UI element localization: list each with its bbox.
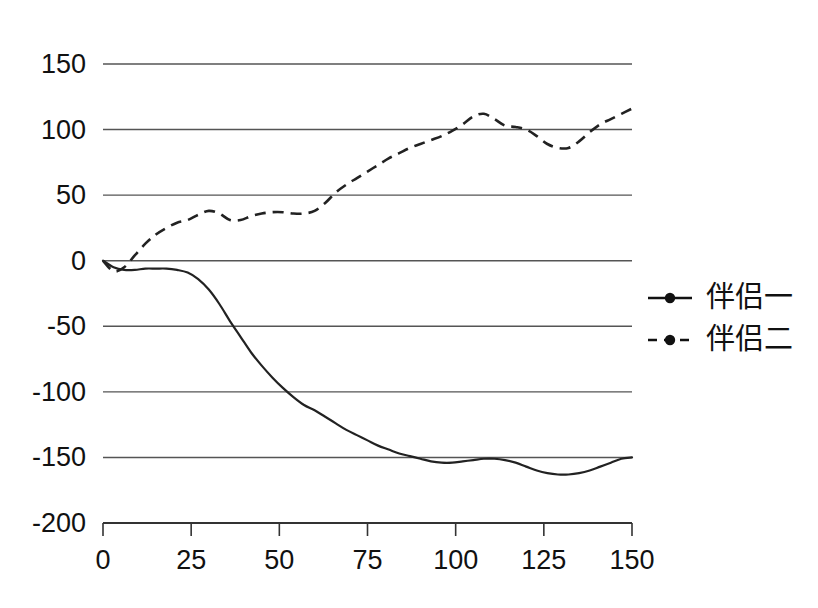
x-axis-tick-label: 100 xyxy=(433,545,478,575)
y-axis-tick-label: -50 xyxy=(47,311,86,341)
x-axis-tick-label: 25 xyxy=(176,545,206,575)
x-axis-tick-label: 75 xyxy=(352,545,382,575)
gridlines xyxy=(103,64,632,523)
y-axis-tick-label: 100 xyxy=(41,115,86,145)
legend-label-1: 伴侣一 xyxy=(706,280,793,314)
chart-container: 150100500-50-100-150-200 025507510012515… xyxy=(0,0,818,608)
y-axis-tick-label: 150 xyxy=(41,49,86,79)
y-axis-tick-label: 50 xyxy=(56,180,86,210)
x-axis xyxy=(103,523,632,536)
x-axis-tick-labels: 0255075100125150 xyxy=(95,545,654,575)
y-axis-tick-label: -100 xyxy=(32,377,86,407)
legend-label-2: 伴侣二 xyxy=(706,322,793,356)
legend-marker-2 xyxy=(665,335,675,345)
y-axis-tick-label: 0 xyxy=(71,246,86,276)
x-axis-tick-label: 150 xyxy=(609,545,654,575)
y-axis-tick-labels: 150100500-50-100-150-200 xyxy=(32,49,86,538)
series-lines xyxy=(103,109,632,475)
x-axis-tick-label: 0 xyxy=(95,545,110,575)
x-axis-tick-label: 125 xyxy=(521,545,566,575)
series-line-1 xyxy=(103,261,632,475)
chart-legend: 伴侣一伴侣二 xyxy=(648,280,793,356)
series-line-2 xyxy=(103,109,632,272)
legend-marker-1 xyxy=(665,293,675,303)
line-chart: 150100500-50-100-150-200 025507510012515… xyxy=(0,0,818,608)
y-axis-tick-label: -200 xyxy=(32,508,86,538)
y-axis-tick-label: -150 xyxy=(32,442,86,472)
x-axis-tick-label: 50 xyxy=(264,545,294,575)
